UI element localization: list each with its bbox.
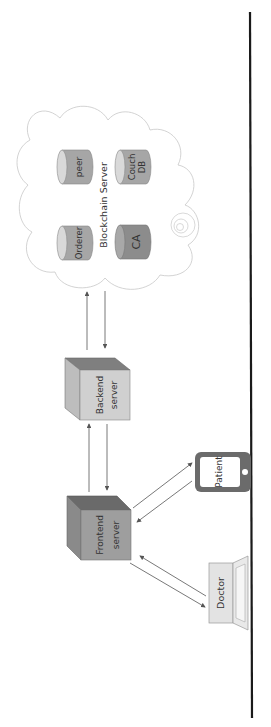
couch-db-label-2: DB: [137, 161, 147, 174]
doctor-laptop: Doctor: [209, 556, 248, 630]
arrow-frontend-to-doctor: [130, 563, 205, 607]
cylinder-couch-db: Couch DB: [115, 150, 151, 184]
backend-server-cube: Backend server: [65, 358, 130, 420]
frontend-label-2: server: [111, 520, 121, 549]
orderer-label: Orderer: [74, 226, 84, 259]
frontend-label-1: Frontend: [95, 515, 105, 555]
cylinder-ca: CA: [115, 225, 151, 259]
cylinder-orderer: Orderer: [57, 226, 93, 260]
peer-label: peer: [74, 156, 84, 177]
page-rule: [250, 12, 252, 718]
backend-label-1: Backend: [95, 376, 105, 414]
arrow-patient-to-frontend: [137, 481, 192, 522]
arrow-frontend-to-patient: [133, 463, 192, 508]
patient-label: Patient: [214, 456, 224, 488]
cylinder-peer: peer: [57, 150, 93, 184]
blockchain-server-title: Blockchain Server: [98, 162, 109, 248]
backend-label-2: server: [109, 380, 119, 409]
doctor-label: Doctor: [215, 577, 226, 609]
ca-label: CA: [130, 234, 143, 250]
architecture-diagram: peer Couch DB Orderer CA Blockchain Serv…: [0, 0, 271, 727]
patient-phone: Patient: [195, 452, 251, 492]
arrow-doctor-to-frontend: [140, 556, 206, 596]
frontend-server-cube: Frontend server: [67, 496, 131, 560]
couch-db-label-1: Couch: [127, 154, 137, 181]
